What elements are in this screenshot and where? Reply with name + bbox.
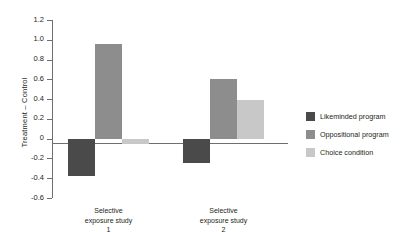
y-tick: -0.6	[47, 198, 52, 199]
y-tick-label: -0.4	[31, 173, 44, 182]
y-tick-label: -0.6	[31, 193, 44, 202]
y-tick: 0.6	[47, 79, 52, 80]
legend-swatch	[306, 148, 315, 157]
legend-label: Choice condition	[320, 148, 373, 157]
y-tick: -0.4	[47, 178, 52, 179]
chart-legend: Likeminded programOppositional programCh…	[306, 112, 412, 166]
bar	[95, 44, 122, 139]
category-label-line: 1	[53, 225, 165, 232]
y-tick: 0.4	[47, 99, 52, 100]
category-label-line: 2	[168, 225, 280, 232]
category-label: Selectiveexposure study2	[168, 206, 280, 232]
y-tick-label: 1.0	[34, 34, 44, 43]
y-tick: 0	[47, 139, 52, 140]
legend-item: Choice condition	[306, 148, 412, 157]
y-tick-label: 0.4	[34, 94, 44, 103]
y-tick: 1.0	[47, 40, 52, 41]
plot-area: 1.21.00.80.60.40.20-0.2-0.4-0.6 Selectiv…	[52, 20, 288, 198]
legend-swatch	[306, 112, 315, 121]
y-tick-label: 0	[40, 133, 44, 142]
legend-swatch	[306, 130, 315, 139]
category-label-line: exposure study	[168, 216, 280, 226]
y-tick-label: 0.2	[34, 113, 44, 122]
legend-item: Likeminded program	[306, 112, 412, 121]
y-axis-line	[52, 20, 53, 198]
bar	[68, 139, 95, 177]
legend-label: Oppositional program	[320, 130, 389, 139]
bar	[237, 100, 264, 139]
bar	[183, 139, 210, 164]
legend-item: Oppositional program	[306, 130, 412, 139]
y-tick: 0.8	[47, 60, 52, 61]
y-tick-label: 0.8	[34, 54, 44, 63]
chart-figure: Treatment – Control 1.21.00.80.60.40.20-…	[0, 0, 413, 232]
y-tick-label: 1.2	[34, 15, 44, 24]
y-axis-label: Treatment – Control	[20, 43, 29, 183]
y-tick: -0.2	[47, 158, 52, 159]
y-tick: 1.2	[47, 20, 52, 21]
y-tick-label: 0.6	[34, 74, 44, 83]
category-label-line: Selective	[53, 206, 165, 216]
bar	[122, 139, 149, 144]
legend-label: Likeminded program	[320, 112, 386, 121]
category-label-line: Selective	[168, 206, 280, 216]
y-tick-label: -0.2	[31, 153, 44, 162]
category-label-line: exposure study	[53, 216, 165, 226]
bar	[210, 79, 237, 138]
category-label: Selectiveexposure study1	[53, 206, 165, 232]
y-tick: 0.2	[47, 119, 52, 120]
